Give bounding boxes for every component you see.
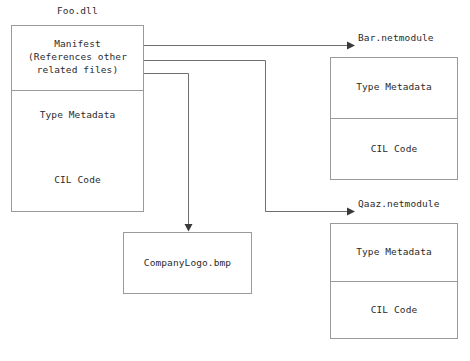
assembly-section-manifest: Manifest (References other related files… <box>11 25 144 90</box>
arrowhead-company-logo <box>185 224 193 232</box>
arrowhead-bar <box>347 42 355 50</box>
module-qaaz-section-cil-code: CIL Code <box>330 281 458 339</box>
connector-foo-to-company-logo <box>144 74 189 225</box>
diagram-canvas: Foo.dll Manifest (References other relat… <box>0 0 470 361</box>
module-bar-section-cil-code: CIL Code <box>330 118 458 180</box>
module-caption-bar-netmodule: Bar.netmodule <box>358 32 434 43</box>
assembly-caption-foo-dll: Foo.dll <box>57 5 98 16</box>
module-caption-qaaz-netmodule: Qaaz.netmodule <box>358 198 439 209</box>
assembly-section-type-metadata: Type Metadata <box>11 95 144 135</box>
assembly-section-cil-code: CIL Code <box>11 160 144 200</box>
arrowhead-qaaz <box>347 208 355 216</box>
connector-foo-to-qaaz <box>144 61 347 212</box>
module-bar-section-type-metadata: Type Metadata <box>330 57 458 118</box>
module-qaaz-section-type-metadata: Type Metadata <box>330 223 458 281</box>
assembly-divider-manifest <box>11 90 144 91</box>
resource-label-company-logo: CompanyLogo.bmp <box>123 232 252 294</box>
